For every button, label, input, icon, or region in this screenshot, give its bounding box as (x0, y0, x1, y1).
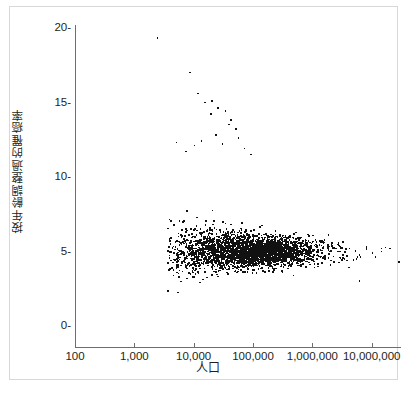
data-point (192, 270, 194, 272)
data-point (197, 263, 199, 265)
data-point (285, 239, 287, 241)
data-point (209, 239, 211, 241)
data-point (180, 234, 182, 236)
data-point (339, 257, 341, 259)
data-point (212, 210, 214, 212)
data-point (366, 248, 368, 250)
data-point (280, 255, 282, 257)
data-point (176, 272, 178, 274)
data-point (389, 248, 391, 250)
data-point (289, 239, 291, 241)
data-point (184, 240, 186, 242)
data-point (168, 246, 170, 248)
data-point (244, 271, 246, 273)
data-point (209, 228, 211, 230)
data-point (293, 275, 295, 277)
data-point (301, 260, 303, 262)
data-point (179, 259, 181, 261)
data-point (254, 235, 256, 237)
data-point (201, 235, 203, 237)
data-point (274, 264, 276, 266)
data-point (196, 259, 198, 261)
data-point (190, 273, 192, 275)
data-point (206, 277, 208, 279)
data-point (250, 230, 252, 232)
data-point (251, 257, 253, 259)
data-point (298, 265, 300, 267)
data-point (288, 265, 290, 267)
data-point (252, 254, 254, 256)
data-point (278, 260, 280, 262)
data-point (345, 248, 347, 250)
y-tick-label: 20- (54, 21, 71, 33)
data-point (309, 264, 311, 266)
data-point (178, 236, 180, 238)
data-point (172, 262, 174, 264)
data-point (282, 235, 284, 237)
data-point (313, 254, 315, 256)
data-point (200, 228, 202, 230)
data-point (305, 249, 307, 251)
data-point (265, 265, 267, 267)
data-point (179, 220, 181, 222)
data-point (292, 262, 294, 264)
data-point (272, 253, 274, 255)
data-point (238, 266, 240, 268)
data-point (299, 260, 301, 262)
data-point (248, 234, 250, 236)
data-point (190, 228, 192, 230)
data-point (338, 262, 340, 264)
data-point (203, 231, 205, 233)
data-point (218, 251, 220, 253)
data-point (175, 259, 177, 261)
data-point (247, 247, 249, 249)
data-point (252, 240, 254, 242)
data-point (216, 260, 218, 262)
data-point (268, 241, 270, 243)
data-point (222, 234, 224, 236)
data-point (250, 251, 252, 253)
data-point (177, 255, 179, 257)
data-point (173, 275, 175, 277)
data-point (323, 256, 325, 258)
data-point (204, 268, 206, 270)
data-point (315, 239, 317, 241)
data-point (292, 254, 294, 256)
data-point (249, 245, 251, 247)
data-point (276, 263, 278, 265)
data-point (227, 232, 229, 234)
data-point (169, 240, 171, 242)
data-point (232, 238, 234, 240)
data-point (302, 246, 304, 248)
data-point (308, 235, 310, 237)
data-point (270, 236, 272, 238)
data-point (255, 244, 257, 246)
data-point (183, 243, 185, 245)
data-point (210, 261, 212, 263)
data-point (198, 260, 200, 262)
data-point (212, 238, 214, 240)
data-point (236, 267, 238, 269)
data-point (258, 233, 260, 235)
data-point (272, 259, 274, 261)
data-point (181, 229, 183, 231)
data-point (232, 268, 234, 270)
data-point-outlier (197, 93, 199, 95)
data-point (262, 245, 264, 247)
y-tick-label: 5- (61, 245, 71, 257)
data-point (230, 224, 232, 226)
data-point (187, 258, 189, 260)
data-point (196, 234, 198, 236)
data-point (204, 248, 206, 250)
data-point (281, 239, 283, 241)
data-point (324, 258, 326, 260)
data-point (212, 231, 214, 233)
data-point (207, 263, 209, 265)
data-point (281, 270, 283, 272)
data-point (257, 240, 259, 242)
data-point (323, 243, 325, 245)
data-point (197, 240, 199, 242)
data-point (227, 245, 229, 247)
data-point (240, 261, 242, 263)
data-point (328, 257, 330, 259)
